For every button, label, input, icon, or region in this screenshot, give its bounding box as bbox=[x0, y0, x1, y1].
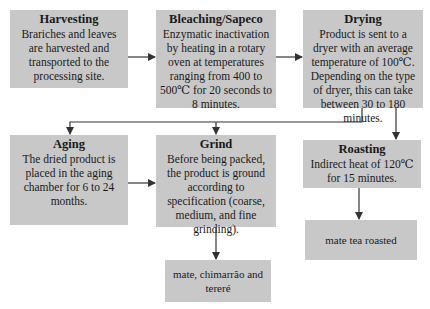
step-title: Harvesting bbox=[13, 12, 125, 27]
step-title: Drying bbox=[306, 12, 420, 27]
step-description: Product is sent to a dryer with an avera… bbox=[306, 27, 420, 125]
step-title: Grind bbox=[159, 137, 273, 152]
step-roasting: Roasting Indirect heat of 120℃ for 15 mi… bbox=[303, 140, 421, 188]
step-description: Before being packed, the product is grou… bbox=[159, 152, 273, 236]
step-aging: Aging The dried product is placed in the… bbox=[10, 135, 128, 225]
output-label: mate tea roasted bbox=[325, 233, 396, 247]
step-description: Brariches and leaves are harvested and t… bbox=[13, 27, 125, 83]
step-title: Aging bbox=[13, 137, 125, 152]
step-drying: Drying Product is sent to a dryer with a… bbox=[303, 10, 423, 108]
step-description: The dried product is placed in the aging… bbox=[13, 152, 125, 208]
step-harvesting: Harvesting Brariches and leaves are harv… bbox=[10, 10, 128, 88]
step-grind: Grind Before being packed, the product i… bbox=[156, 135, 276, 227]
output-label: mate, chimarrão and tereré bbox=[168, 267, 268, 295]
step-description: Indirect heat of 120℃ for 15 minutes. bbox=[306, 157, 418, 185]
output-mate-chimarrao-terere: mate, chimarrão and tereré bbox=[165, 260, 271, 302]
step-bleaching: Bleaching/Sapeco Enzymatic inactivation … bbox=[156, 10, 276, 108]
step-title: Roasting bbox=[306, 142, 418, 157]
output-mate-tea-roasted: mate tea roasted bbox=[305, 220, 417, 260]
step-description: Enzymatic inactivation by heating in a r… bbox=[159, 27, 273, 111]
step-title: Bleaching/Sapeco bbox=[159, 12, 273, 27]
